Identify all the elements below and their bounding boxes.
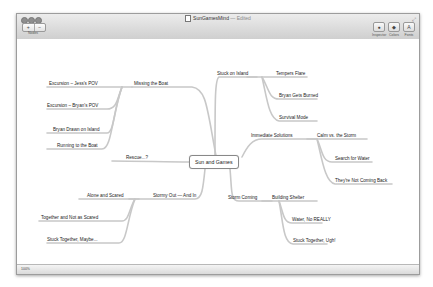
central-node[interactable]: Sun and Games: [189, 155, 239, 169]
link-immediate-solutions: [242, 139, 317, 157]
window-title-text: SunGamesMind: [193, 15, 229, 21]
fonts-button[interactable]: A Fonts: [402, 22, 416, 37]
child-node[interactable]: Building Shelter: [272, 195, 304, 201]
app-window: SunGamesMind — Edited ⤢ + − Nodes ● Insp…: [16, 13, 420, 275]
title-bar[interactable]: SunGamesMind — Edited ⤢ + − Nodes ● Insp…: [17, 14, 419, 40]
status-bar: 100%: [17, 264, 419, 274]
zoom-level[interactable]: 100%: [21, 267, 30, 271]
branch-node[interactable]: Storm Coming: [228, 195, 257, 201]
fonts-label: Fonts: [402, 33, 416, 37]
branch-node[interactable]: Immediate Solutions: [251, 133, 293, 139]
child-node[interactable]: Survival Mode: [279, 115, 308, 121]
child-node[interactable]: Tempers Flare: [276, 71, 305, 77]
nodes-label: Nodes: [28, 31, 38, 35]
child-node[interactable]: They're Not Coming Back: [335, 178, 387, 184]
colors-icon: ◆: [388, 22, 400, 32]
child-node[interactable]: Running to the Boat: [57, 143, 98, 149]
inspector-icon: ●: [373, 22, 385, 32]
edited-status: — Edited: [230, 15, 251, 21]
child-node[interactable]: Alone and Scared: [87, 193, 124, 199]
branch-node[interactable]: Stuck on Island: [217, 71, 248, 77]
document-icon: [185, 15, 191, 22]
child-node[interactable]: Together and Not as Scared: [41, 215, 98, 221]
branch-node[interactable]: Rescue...?: [126, 155, 148, 161]
child-node[interactable]: Search for Water: [335, 156, 370, 162]
mindmap-canvas[interactable]: Sun and Games Missing the Boat Excursion…: [17, 39, 419, 267]
colors-label: Colors: [387, 33, 401, 37]
child-node[interactable]: Excursion – Jess's POV: [49, 81, 98, 87]
link-rescue: [112, 161, 189, 162]
remove-node-button[interactable]: −: [34, 24, 46, 31]
child-node[interactable]: Stuck Together, Maybe...: [47, 237, 97, 243]
link-running-boat: [47, 87, 122, 149]
child-node[interactable]: Stuck Together, Ugh!: [293, 238, 336, 244]
child-node[interactable]: Water, No REALLY: [292, 217, 331, 223]
inspector-button[interactable]: ● Inspector: [372, 22, 386, 37]
fonts-icon: A: [403, 22, 415, 32]
inspector-label: Inspector: [372, 33, 386, 37]
child-node[interactable]: Bryan Gets Burned: [279, 93, 318, 99]
child-node[interactable]: Calm vs. the Storm: [317, 133, 356, 139]
add-node-button[interactable]: +: [23, 24, 34, 31]
window-title: SunGamesMind — Edited: [17, 15, 419, 22]
branch-node[interactable]: Stormy Out — And In: [153, 193, 196, 199]
child-node[interactable]: Bryan Drawn on Island: [53, 127, 99, 133]
branch-node[interactable]: Missing the Boat: [134, 81, 168, 87]
colors-button[interactable]: ◆ Colors: [387, 22, 401, 37]
link-missing-the-boat: [132, 87, 217, 161]
child-node[interactable]: Excursion – Bryan's POV: [47, 103, 98, 109]
